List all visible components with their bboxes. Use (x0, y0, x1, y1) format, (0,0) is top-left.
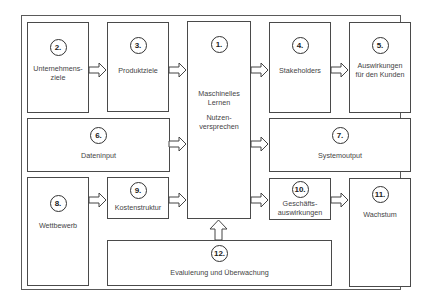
arrows-layer (0, 0, 436, 307)
arrow-right-icon (169, 137, 186, 151)
arrow-right-icon (331, 63, 348, 77)
arrow-right-icon (89, 193, 106, 207)
arrow-up-icon (210, 220, 227, 240)
arrow-right-icon (169, 63, 186, 77)
arrow-right-icon (169, 193, 186, 207)
arrow-right-icon (331, 193, 348, 207)
arrow-right-icon (251, 137, 268, 151)
arrow-right-icon (251, 193, 268, 207)
arrow-right-icon (251, 63, 268, 77)
arrow-right-icon (89, 63, 106, 77)
